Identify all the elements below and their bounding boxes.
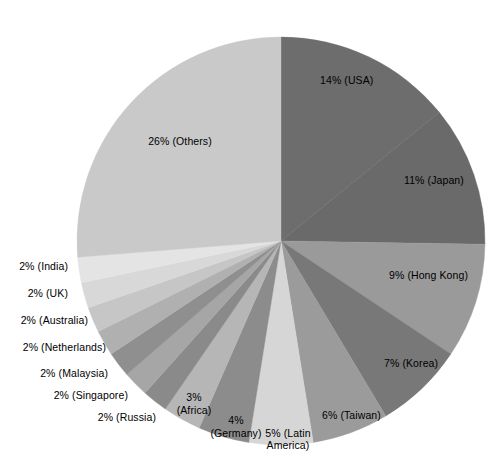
slice-label-germany-line2: (Germany) — [206, 427, 266, 440]
pie-chart: 14% (USA) 11% (Japan) 9% (Hong Kong) 7% … — [0, 0, 499, 461]
slice-label-netherlands: 2% (Netherlands) — [0, 341, 106, 354]
slice-label-latin-america-line2: America) — [256, 439, 320, 452]
slice-label-australia: 2% (Australia) — [0, 314, 88, 327]
slice-label-malaysia: 2% (Malaysia) — [0, 367, 108, 380]
slice-label-korea: 7% (Korea) — [384, 357, 438, 370]
slice-label-africa-line1: 3% — [170, 391, 218, 404]
slice-label-singapore: 2% (Singapore) — [0, 389, 128, 402]
slice-label-others: 26% (Others) — [142, 135, 218, 148]
slice-label-africa-line2: (Africa) — [170, 404, 218, 417]
slice-label-taiwan: 6% (Taiwan) — [322, 409, 381, 422]
slice-label-russia: 2% (Russia) — [0, 411, 156, 424]
pie-slice-group — [77, 37, 485, 445]
slice-label-uk: 2% (UK) — [0, 287, 68, 300]
slice-label-japan: 11% (Japan) — [404, 174, 464, 187]
slice-label-usa: 14% (USA) — [320, 74, 373, 87]
slice-label-india: 2% (India) — [0, 260, 68, 273]
slice-label-hong-kong: 9% (Hong Kong) — [389, 269, 468, 282]
